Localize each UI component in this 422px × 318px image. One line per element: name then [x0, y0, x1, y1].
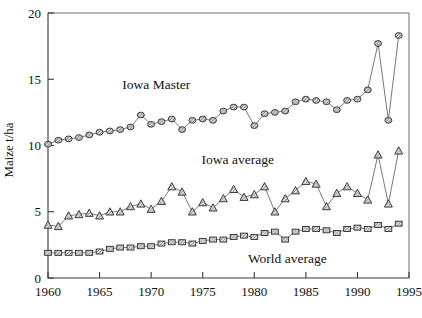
x-tick-label: 1970	[138, 284, 164, 299]
data-point-circle	[210, 117, 217, 123]
data-point-circle	[333, 107, 340, 113]
data-point-square	[55, 250, 62, 255]
data-point-circle	[364, 87, 371, 93]
data-point-square	[210, 237, 217, 242]
data-point-square	[96, 249, 103, 254]
data-point-triangle	[281, 195, 289, 202]
data-point-square	[323, 228, 330, 233]
data-point-triangle	[364, 196, 372, 203]
data-point-circle	[230, 104, 237, 110]
data-point-circle	[199, 116, 206, 122]
data-point-square	[333, 230, 340, 235]
data-point-triangle	[250, 191, 258, 198]
data-point-circle	[106, 128, 113, 134]
data-point-square	[241, 233, 248, 238]
data-point-triangle	[85, 209, 93, 216]
data-point-square	[199, 238, 206, 243]
data-point-circle	[117, 127, 124, 133]
data-point-circle	[302, 96, 309, 102]
data-point-circle	[158, 119, 165, 125]
data-point-circle	[220, 108, 227, 114]
maize-yield-chart: 05101520 1960196519701975198019851990199…	[0, 0, 422, 318]
series-line-iowa-master	[48, 36, 399, 145]
data-point-circle	[179, 127, 186, 133]
data-point-circle	[55, 137, 62, 143]
data-point-square	[220, 237, 227, 242]
data-point-triangle	[302, 177, 310, 184]
data-point-circle	[75, 135, 82, 141]
data-point-square	[137, 244, 144, 249]
data-point-circle	[86, 132, 93, 138]
data-point-square	[292, 229, 299, 234]
data-point-triangle	[230, 185, 238, 192]
data-point-triangle	[261, 183, 269, 190]
data-point-square	[65, 250, 72, 255]
y-tick-label: 15	[28, 72, 41, 87]
data-point-circle	[385, 117, 392, 123]
x-tick-label: 1985	[293, 284, 319, 299]
annotation-world-average: World average	[248, 251, 327, 266]
data-point-circle	[65, 136, 72, 142]
data-point-triangle	[137, 200, 145, 207]
data-point-square	[364, 226, 371, 231]
data-point-square	[117, 245, 124, 250]
data-point-square	[302, 226, 309, 231]
data-point-circle	[189, 117, 196, 123]
annotation-iowa-average: Iowa average	[202, 152, 274, 167]
data-point-triangle	[374, 151, 382, 158]
x-tick-label: 1995	[396, 284, 422, 299]
data-point-triangle	[343, 183, 351, 190]
data-point-square	[86, 250, 93, 255]
data-point-circle	[395, 33, 402, 39]
annotation-iowa-master: Iowa Master	[122, 77, 190, 92]
data-point-circle	[354, 96, 361, 102]
data-point-square	[127, 245, 134, 250]
data-point-square	[344, 226, 351, 231]
data-point-circle	[282, 108, 289, 114]
data-point-square	[385, 226, 392, 231]
data-point-square	[189, 241, 196, 246]
data-point-circle	[240, 104, 247, 110]
data-point-triangle	[199, 198, 207, 205]
data-point-circle	[261, 111, 268, 117]
data-point-triangle	[353, 189, 361, 196]
data-point-square	[76, 250, 83, 255]
data-point-square	[158, 241, 165, 246]
data-point-circle	[344, 98, 351, 104]
x-tick-label: 1975	[190, 284, 216, 299]
y-tick-label: 5	[35, 204, 42, 219]
y-axis-label: Maize t/ha	[1, 122, 16, 177]
data-point-circle	[323, 99, 330, 105]
data-point-square	[261, 230, 268, 235]
data-point-triangle	[147, 205, 155, 212]
series-lines	[48, 36, 399, 253]
data-point-triangle	[395, 147, 403, 154]
data-point-triangle	[384, 200, 392, 207]
x-axis-ticks: 19601965197019751980198519901995	[35, 272, 422, 299]
data-point-square	[106, 246, 113, 251]
data-point-square	[230, 234, 237, 239]
data-point-square	[375, 223, 382, 228]
data-point-triangle	[178, 188, 186, 195]
series-markers	[44, 33, 403, 256]
data-point-square	[179, 240, 186, 245]
data-point-circle	[45, 141, 52, 147]
x-tick-label: 1980	[241, 284, 267, 299]
data-point-square	[148, 244, 155, 249]
data-point-square	[354, 225, 361, 230]
data-point-circle	[127, 124, 134, 130]
data-point-circle	[251, 123, 258, 129]
data-point-circle	[168, 116, 175, 122]
data-point-circle	[313, 98, 320, 104]
data-point-circle	[271, 109, 278, 115]
data-point-circle	[375, 41, 382, 47]
data-point-triangle	[333, 189, 341, 196]
data-point-square	[45, 250, 52, 255]
y-tick-label: 10	[28, 138, 41, 153]
data-point-circle	[96, 129, 103, 135]
data-point-square	[282, 237, 289, 242]
data-point-square	[168, 240, 175, 245]
x-tick-label: 1990	[344, 284, 370, 299]
chart-container: 05101520 1960196519701975198019851990199…	[0, 0, 422, 318]
data-point-square	[272, 229, 279, 234]
